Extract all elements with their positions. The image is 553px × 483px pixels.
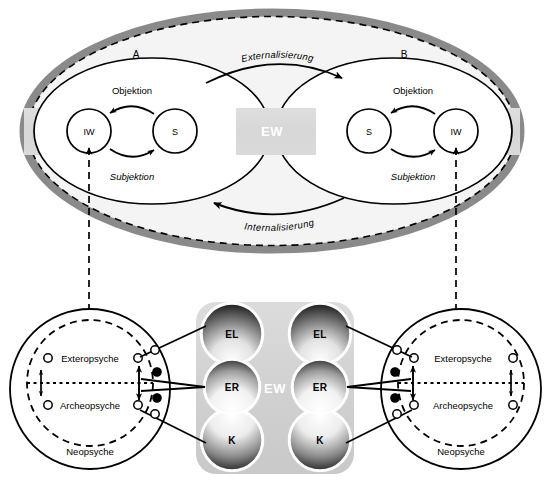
lobe-left-el-label: EL (225, 329, 238, 340)
port-left-extero-outer (134, 354, 142, 362)
port-left-extero-inner (44, 354, 52, 362)
lobes-left-group: EL ER K (202, 304, 262, 470)
exteropsyche-right-label: Exteropsyche (434, 353, 492, 364)
port-left-er-filled-lower (153, 394, 161, 402)
lower-ew-label: EW (264, 381, 286, 396)
upper-ew-label: EW (261, 124, 283, 139)
objektion-a-label: Objektion (112, 85, 152, 96)
port-right-archeo-inner (509, 401, 517, 409)
port-left-er-filled-upper (153, 368, 161, 376)
subjektion-a-label: Subjektion (110, 171, 154, 182)
psyche-left: Exteropsyche Archeopsyche Neopsyche (10, 309, 206, 469)
node-iw-b-label: IW (451, 127, 463, 137)
port-left-el-open (151, 346, 159, 354)
neopsyche-circle-right (381, 309, 541, 469)
node-iw-a-label: IW (84, 127, 96, 137)
archeopsyche-right-label: Archeopsyche (433, 400, 493, 411)
lobes-right-group: EL ER K (290, 304, 350, 470)
diagram-canvas: A B EW Externalisierung Internalisierung… (0, 0, 553, 483)
port-left-k-open (151, 410, 159, 418)
port-right-archeo-outer (410, 401, 418, 409)
node-s-b-label: S (366, 127, 372, 137)
subjektion-b-label: Subjektion (391, 171, 435, 182)
psyche-right: Exteropsyche Archeopsyche Neopsyche (346, 309, 541, 469)
lobe-left-er-label: ER (225, 382, 240, 393)
node-s-a-label: S (172, 127, 178, 137)
lobe-left-k-label: K (228, 435, 236, 446)
port-right-extero-inner (509, 354, 517, 362)
neopsyche-right-label: Neopsyche (437, 446, 485, 457)
archeopsyche-left-label: Archeopsyche (60, 400, 120, 411)
neopsyche-left-label: Neopsyche (66, 446, 114, 457)
neopsyche-circle-left (10, 309, 170, 469)
port-right-k-open (393, 410, 401, 418)
lobe-right-k-label: K (316, 435, 324, 446)
label-side-b: B (401, 49, 408, 60)
port-right-el-open (393, 346, 401, 354)
port-right-er-filled-upper (391, 368, 399, 376)
port-right-extero-outer (410, 354, 418, 362)
exteropsyche-left-label: Exteropsyche (61, 353, 119, 364)
label-side-a: A (133, 49, 140, 60)
port-left-archeo-inner (44, 401, 52, 409)
port-left-archeo-outer (134, 401, 142, 409)
lobe-right-er-label: ER (313, 382, 328, 393)
lobe-right-el-label: EL (313, 329, 326, 340)
objektion-b-label: Objektion (393, 85, 433, 96)
port-right-er-filled-lower (391, 394, 399, 402)
